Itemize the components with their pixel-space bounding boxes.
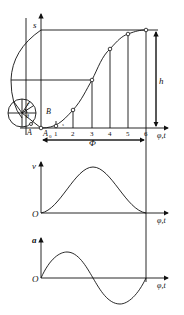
h-label: h [159,76,164,86]
svg-text:2: 2 [71,130,75,138]
svg-text:4: 4 [108,130,112,138]
svg-text:1: 1 [54,130,58,138]
svg-text:O: O [32,209,39,219]
svg-text:A: A [26,128,32,137]
velocity-curve [41,167,146,213]
motion-diagram: s φ,t h Φ 1 2 3 4 5 6 r θ B A A 0 s v O … [0,0,184,315]
svg-text:5: 5 [126,130,130,138]
svg-text:A: A [42,129,48,138]
svg-text:0: 0 [49,134,52,139]
phi-t-label: φ,t [157,131,166,140]
svg-text:φ,t: φ,t [157,216,166,225]
s-label: s [33,20,37,30]
svg-text:B: B [46,107,51,116]
svg-text:6: 6 [144,130,148,138]
svg-text:s: s [62,122,64,127]
svg-text:3: 3 [90,130,94,138]
svg-text:φ,t: φ,t [157,281,166,290]
v-label: v [32,161,36,171]
a-label: a [32,235,37,245]
svg-text:θ: θ [26,113,29,119]
svg-text:O: O [32,274,39,284]
period-label: Φ [89,138,96,148]
